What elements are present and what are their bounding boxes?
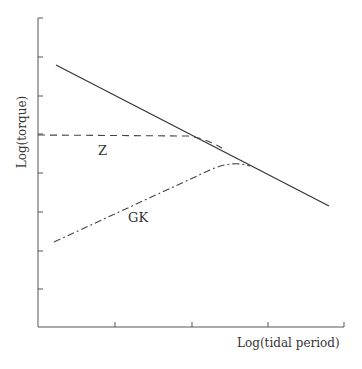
x-axis-label: Log(tidal period) (237, 336, 340, 350)
tidal-torque-chart: Z GK Log(tidal period) Log(torque) (0, 0, 362, 369)
gk-curve (54, 164, 250, 242)
y-ticks (38, 18, 43, 289)
y-axis-label: Log(torque) (15, 96, 29, 169)
z-curve (38, 135, 222, 148)
z-label: Z (98, 143, 107, 158)
total-torque-line (56, 65, 329, 206)
gk-label: GK (128, 210, 148, 225)
x-ticks (115, 322, 344, 327)
